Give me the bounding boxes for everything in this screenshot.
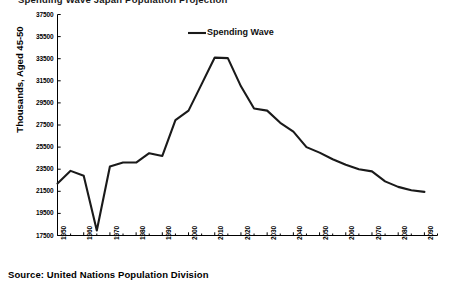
x-axis-tick-label: 2050: [322, 225, 329, 239]
x-axis-tick-label: 1990: [165, 225, 172, 239]
y-axis-tick-label: 37500: [14, 11, 54, 18]
x-axis-tick-label: 2000: [191, 225, 198, 239]
x-axis-tick-label: 2060: [348, 225, 355, 239]
x-axis-tick-label: 1970: [113, 225, 120, 239]
y-axis-tick-label: 27500: [14, 121, 54, 128]
y-axis-tick-label: 35500: [14, 33, 54, 40]
x-axis-tick-label: 2020: [244, 225, 251, 239]
y-axis-tick-label: 31500: [14, 77, 54, 84]
legend-entry-label: Spending Wave: [207, 27, 274, 37]
x-axis-tick-label: 1950: [60, 225, 67, 239]
y-axis-tick-label: 25500: [14, 143, 54, 150]
x-axis-tick-label: 2010: [217, 225, 224, 239]
y-axis-tick-label: 21500: [14, 187, 54, 194]
y-axis-tick-label: 17500: [14, 232, 54, 239]
y-axis-tick-label: 29500: [14, 99, 54, 106]
x-axis-tick-label: 2090: [427, 225, 434, 239]
x-axis-tick-label: 1960: [86, 225, 93, 239]
x-axis-tick-label: 2080: [401, 225, 408, 239]
y-axis-tick-label: 33500: [14, 55, 54, 62]
x-axis-tick-label: 2070: [375, 225, 382, 239]
x-axis-tick-label: 2030: [270, 225, 277, 239]
chart-figure: Spending Wave Japan Population Projectio…: [0, 0, 452, 290]
y-axis-tick-label: 23500: [14, 165, 54, 172]
x-axis-tick-label: 2040: [296, 225, 303, 239]
plot-canvas: [0, 0, 452, 290]
x-axis-tick-label: 1980: [139, 225, 146, 239]
y-axis-tick-label: 19500: [14, 209, 54, 216]
source-note: Source: United Nations Population Divisi…: [8, 269, 209, 280]
